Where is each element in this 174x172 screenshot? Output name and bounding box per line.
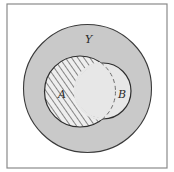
label-b: B xyxy=(117,88,126,101)
venn-diagram: Y A B xyxy=(0,0,174,172)
label-a: A xyxy=(57,88,66,101)
